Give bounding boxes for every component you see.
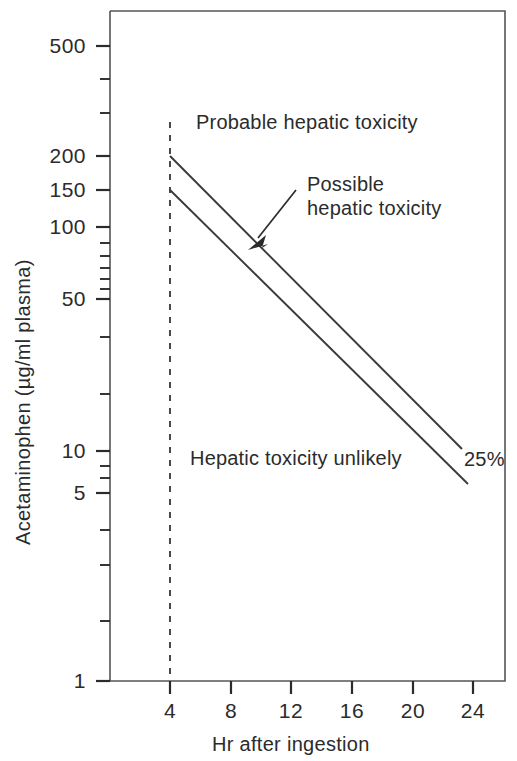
annotation-possible-hepatic-toxicity: Possible hepatic toxicity (307, 172, 441, 221)
y-axis-minor-ticks (100, 79, 110, 621)
x-tick-label-20: 20 (383, 699, 443, 723)
annotation-probable-hepatic-toxicity: Probable hepatic toxicity (196, 110, 418, 134)
x-tick-label-16: 16 (322, 699, 382, 723)
y-tick-label-500: 500 (10, 34, 86, 58)
y-tick-label-150: 150 (10, 178, 86, 202)
annotation-possible-line-1: Possible (307, 173, 384, 195)
y-tick-label-100: 100 (10, 215, 86, 239)
y-tick-label-200: 200 (10, 144, 86, 168)
nomogram-figure: 500 200 150 100 50 10 5 1 4 8 12 16 20 2… (0, 0, 517, 761)
y-axis-major-ticks (96, 46, 110, 681)
y-tick-label-1: 1 (10, 669, 86, 693)
possible-toxicity-line (170, 190, 468, 484)
annotation-possible-line-2: hepatic toxicity (307, 197, 441, 219)
annotation-hepatic-toxicity-unlikely: Hepatic toxicity unlikely (190, 446, 402, 470)
annotation-25-percent: 25% (464, 447, 505, 471)
x-tick-label-8: 8 (201, 699, 261, 723)
y-axis-title: Acetaminophen (µg/ml plasma) (12, 259, 35, 545)
x-axis-title: Hr after ingestion (212, 733, 370, 756)
x-tick-label-12: 12 (261, 699, 321, 723)
x-axis-ticks (170, 681, 473, 694)
x-tick-label-4: 4 (140, 699, 200, 723)
x-tick-label-24: 24 (443, 699, 503, 723)
